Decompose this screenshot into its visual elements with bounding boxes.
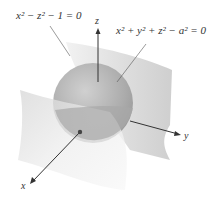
z-axis-arrowhead: [96, 28, 101, 34]
y-axis-arrowhead: [174, 131, 181, 136]
sphere-equation-label: x² + y² + z² − a² = 0: [116, 24, 206, 36]
x-axis-label: x: [21, 180, 25, 191]
x-axis-arrowhead: [30, 177, 36, 184]
cylinder-leader-line: [50, 26, 70, 56]
origin-point: [78, 130, 82, 134]
cylinder-equation-label: x² − z² − 1 = 0: [16, 9, 82, 21]
z-axis-label: z: [95, 15, 99, 26]
y-axis-label: y: [184, 130, 188, 141]
